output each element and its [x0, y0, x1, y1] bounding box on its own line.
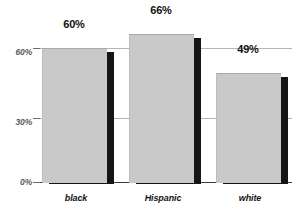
- category-label-white: white: [216, 193, 284, 203]
- y-tick-label-30: 30%: [6, 117, 32, 127]
- bar-group-hispanic: [129, 14, 201, 182]
- bar-chart: 60% 30% 0% 60% 66% 49% black Hispanic: [0, 0, 299, 214]
- bar-hispanic[interactable]: [129, 34, 194, 183]
- plot-area: [40, 14, 292, 182]
- category-label-hispanic: Hispanic: [129, 193, 197, 203]
- value-label-black: 60%: [42, 18, 106, 30]
- y-tick-mark-30: [33, 118, 40, 119]
- value-label-hispanic: 66%: [129, 4, 193, 16]
- category-label-black: black: [42, 193, 110, 203]
- y-tick-label-60: 60%: [6, 47, 32, 57]
- y-tick-mark-0: [33, 182, 40, 183]
- bar-group-white: [216, 14, 288, 182]
- y-tick-label-0: 0%: [6, 177, 32, 187]
- bar-white[interactable]: [216, 73, 281, 183]
- y-tick-mark-60: [33, 48, 40, 49]
- bar-black[interactable]: [42, 48, 107, 183]
- value-label-white: 49%: [216, 43, 280, 55]
- bar-group-black: [42, 14, 114, 182]
